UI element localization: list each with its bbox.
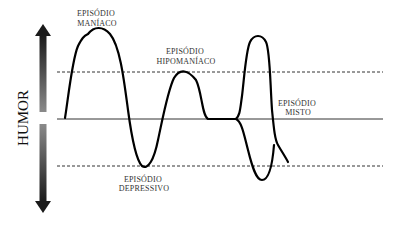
humor-axis-label: HUMOR: [15, 90, 31, 146]
hypomanic-episode-label: EPISÓDIO HIPOMANÍACO: [156, 46, 215, 66]
manic-episode-label: EPISÓDIO MANÍACO: [77, 8, 117, 28]
depressive-episode-label: EPISÓDIO DEPRESSIVO: [119, 174, 169, 193]
mood-episode-diagram: HUMOR EPISÓDIO MANÍACO EPISÓDIO HIPOMANÍ…: [0, 0, 403, 227]
mood-up-arrow: [35, 24, 51, 112]
mixed-episode-down-branch: [236, 119, 274, 180]
mood-down-arrow: [35, 124, 51, 213]
mixed-episode-label: EPISÓDIO MISTO: [278, 98, 318, 117]
